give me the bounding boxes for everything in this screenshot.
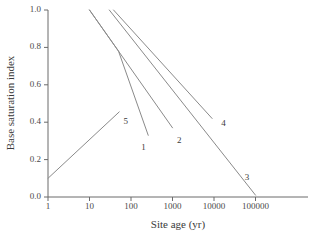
x-axis: 110100100010000100000 <box>46 197 308 211</box>
x-tick-label: 100000 <box>242 201 270 211</box>
data-curve-3 <box>109 10 255 195</box>
curve-label-1: 1 <box>141 142 146 152</box>
curve-label-3: 3 <box>245 172 250 182</box>
y-tick-label: 0.2 <box>30 154 41 164</box>
data-curve-1 <box>90 10 149 135</box>
y-tick-label: 0.8 <box>30 41 42 51</box>
curve-label-group: 12345 <box>124 116 250 182</box>
data-curve-2 <box>90 10 173 128</box>
y-tick-label: 0.4 <box>30 116 42 126</box>
x-tick-label: 10 <box>85 201 95 211</box>
chart-figure: 0.00.20.40.60.81.0 110100100010000100000… <box>0 0 316 236</box>
curve-label-2: 2 <box>177 135 182 145</box>
data-curve-group <box>48 10 256 195</box>
y-axis: 0.00.20.40.60.81.0 <box>30 4 48 201</box>
curve-label-4: 4 <box>221 118 226 128</box>
data-curve-4 <box>114 10 213 118</box>
x-tick-label: 100 <box>124 201 138 211</box>
curve-label-5: 5 <box>124 116 129 126</box>
y-tick-label: 0.0 <box>30 191 42 201</box>
y-tick-group: 0.00.20.40.60.81.0 <box>30 4 48 201</box>
x-tick-label: 1000 <box>164 201 183 211</box>
x-tick-label: 1 <box>46 201 51 211</box>
x-axis-title: Site age (yr) <box>151 218 206 231</box>
y-axis-title: Base saturation index <box>4 55 16 150</box>
y-tick-label: 1.0 <box>30 4 42 14</box>
x-tick-label: 10000 <box>203 201 226 211</box>
data-curve-5 <box>48 112 119 178</box>
x-tick-group: 110100100010000100000 <box>46 197 270 211</box>
chart-plot-svg: 0.00.20.40.60.81.0 110100100010000100000… <box>0 0 316 236</box>
y-tick-label: 0.6 <box>30 79 42 89</box>
